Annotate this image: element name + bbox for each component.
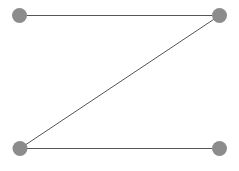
graph-figure bbox=[0, 0, 239, 171]
graph-node-top-right[interactable] bbox=[212, 8, 227, 23]
graph-node-bottom-right[interactable] bbox=[212, 141, 227, 156]
graph-canvas bbox=[0, 0, 239, 171]
figure-background bbox=[0, 0, 239, 171]
graph-node-bottom-left[interactable] bbox=[13, 141, 28, 156]
graph-node-top-left[interactable] bbox=[12, 8, 27, 23]
